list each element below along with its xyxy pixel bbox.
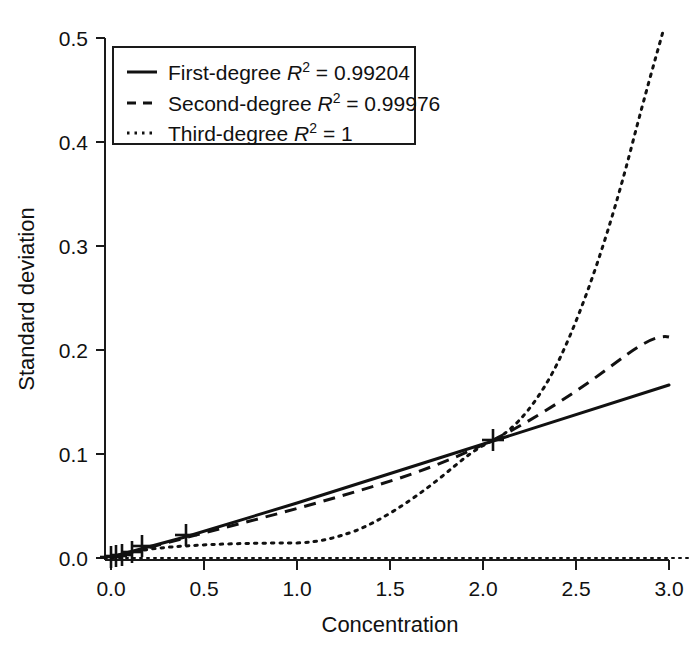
chart-canvas: 0.5 0.4 0.3 0.2 0.1 0.0 0.0 0.5 1.0 1.5 … (0, 0, 695, 656)
x-axis-ticks (111, 560, 669, 570)
y-axis-title: Standard deviation (14, 207, 39, 390)
legend: First-degree R2 = 0.99204 Second-degree … (113, 47, 440, 145)
legend-label-third-degree: Third-degree R2 = 1 (168, 120, 353, 145)
series-second-degree (111, 337, 669, 558)
y-tick-label-0.5: 0.5 (59, 27, 88, 50)
y-axis-ticks (96, 38, 105, 558)
y-tick-label-0.4: 0.4 (59, 131, 89, 154)
y-tick-label-0.1: 0.1 (59, 443, 88, 466)
y-tick-label-0.2: 0.2 (59, 339, 88, 362)
x-tick-label-0.5: 0.5 (189, 577, 218, 600)
x-tick-label-2.5: 2.5 (561, 577, 590, 600)
legend-item-first-degree[interactable]: First-degree R2 = 0.99204 (127, 59, 410, 84)
x-axis-title: Concentration (322, 612, 459, 637)
legend-label-first-degree: First-degree R2 = 0.99204 (168, 59, 410, 84)
y-tick-labels: 0.5 0.4 0.3 0.2 0.1 0.0 (59, 27, 89, 570)
y-tick-label-0.0: 0.0 (59, 547, 88, 570)
data-marker (111, 544, 133, 566)
x-tick-label-0.0: 0.0 (96, 577, 125, 600)
x-tick-label-1.5: 1.5 (375, 577, 404, 600)
data-marker (175, 524, 197, 546)
x-tick-labels: 0.0 0.5 1.0 1.5 2.0 2.5 3.0 (96, 577, 683, 600)
legend-label-second-degree: Second-degree R2 = 0.99976 (168, 90, 440, 115)
y-tick-label-0.3: 0.3 (59, 235, 88, 258)
series-first-degree (111, 385, 669, 557)
data-marker (131, 535, 153, 557)
x-tick-label-2.0: 2.0 (468, 577, 497, 600)
x-tick-label-1.0: 1.0 (282, 577, 311, 600)
x-tick-label-3.0: 3.0 (654, 577, 683, 600)
legend-item-second-degree[interactable]: Second-degree R2 = 0.99976 (127, 90, 440, 115)
data-marker (482, 429, 504, 451)
regression-fit-chart: 0.5 0.4 0.3 0.2 0.1 0.0 0.0 0.5 1.0 1.5 … (0, 0, 695, 656)
